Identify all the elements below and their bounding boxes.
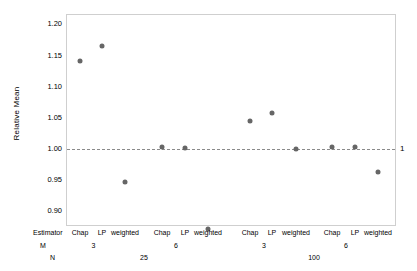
- y-axis-title: Relative Mean: [8, 0, 26, 226]
- x-group-m-label: 3: [92, 242, 96, 249]
- y-tick-label: 1.10: [32, 81, 62, 90]
- y-tick-label: 1.15: [32, 50, 62, 59]
- x-category-label: LP: [181, 229, 190, 236]
- x-category-label: weighted: [282, 229, 310, 236]
- data-point: [183, 146, 188, 151]
- x-group-m-label: 3: [262, 242, 266, 249]
- data-point: [270, 110, 275, 115]
- x-category-label: weighted: [111, 229, 139, 236]
- data-point: [294, 147, 299, 152]
- x-category-label: LP: [351, 229, 360, 236]
- row-key-estimator: Estimator: [33, 229, 63, 236]
- data-point: [353, 145, 358, 150]
- chart-figure: Relative Mean 1.201.151.101.051.000.950.…: [0, 0, 417, 271]
- data-point: [160, 145, 165, 150]
- data-point: [248, 118, 253, 123]
- y-tick-label: 0.95: [32, 175, 62, 184]
- data-point: [376, 169, 381, 174]
- x-group-n-label: 25: [140, 254, 148, 261]
- row-key-n: N: [50, 254, 55, 261]
- x-axis-group-table: Estimator M N ChapLPweightedChapLPweight…: [0, 228, 417, 271]
- row-key-m: M: [40, 242, 46, 249]
- reference-line: [67, 149, 395, 150]
- data-point: [100, 44, 105, 49]
- x-category-label: Chap: [154, 229, 171, 236]
- data-point: [123, 180, 128, 185]
- x-category-label: weighted: [364, 229, 392, 236]
- x-group-n-label: 100: [308, 254, 320, 261]
- data-point: [78, 58, 83, 63]
- x-group-m-label: 6: [344, 242, 348, 249]
- y-axis-title-text: Relative Mean: [13, 86, 22, 140]
- data-point: [330, 145, 335, 150]
- x-category-label: LP: [98, 229, 107, 236]
- x-category-label: Chap: [242, 229, 259, 236]
- x-category-label: weighted: [194, 229, 222, 236]
- x-category-label: Chap: [72, 229, 89, 236]
- plot-area: [66, 14, 396, 226]
- x-group-m-label: 6: [174, 242, 178, 249]
- x-category-label: LP: [268, 229, 277, 236]
- y-tick-label: 1.05: [32, 112, 62, 121]
- y-tick-label: 0.90: [32, 206, 62, 215]
- reference-line-label: 1: [400, 144, 404, 153]
- y-tick-label: 1.20: [32, 19, 62, 28]
- y-tick-label: 1.00: [32, 144, 62, 153]
- x-category-label: Chap: [324, 229, 341, 236]
